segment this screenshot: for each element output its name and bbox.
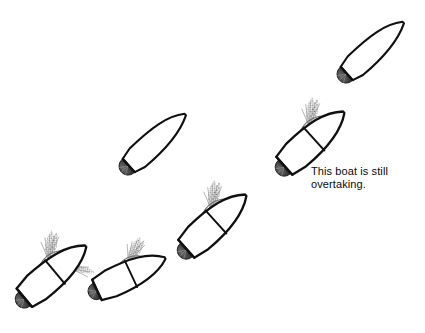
boat-bottom-left xyxy=(0,220,102,324)
boat-lower-middle xyxy=(157,171,256,267)
boat-top-right xyxy=(331,13,411,89)
annotation-label: This boat is still overtaking. xyxy=(311,165,419,191)
boat-overtaking-diagram: This boat is still overtaking. xyxy=(0,0,425,333)
boat-middle xyxy=(113,105,193,181)
